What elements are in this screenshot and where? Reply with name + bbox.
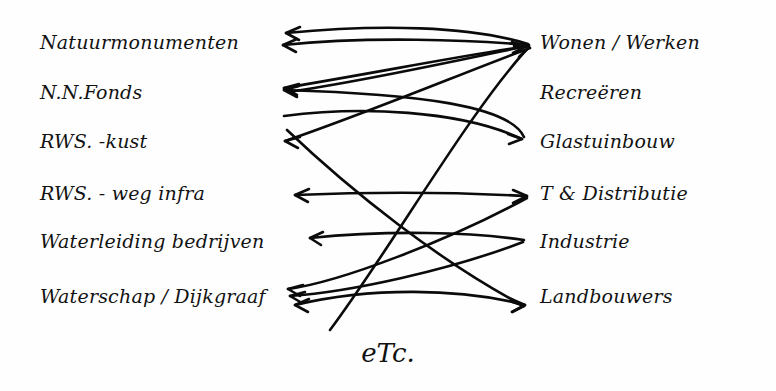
right-label-landbouwers: Landbouwers	[539, 285, 673, 307]
connector-c12	[288, 198, 527, 296]
left-label-waterschap-dijkgraaf: Waterschap / Dijkgraaf	[40, 285, 269, 307]
connector-c2	[283, 39, 529, 52]
left-label-waterleiding-bedrijven: Waterleiding bedrijven	[40, 230, 264, 252]
right-label-t-distributie: T & Distributie	[540, 182, 688, 204]
left-column: Natuurmonumenten N.N.Fonds RWS. -kust RW…	[39, 31, 269, 307]
connector-group	[283, 27, 530, 330]
left-label-rws-weg-infra: RWS. - weg infra	[39, 182, 205, 204]
footer-note: eTc.	[361, 338, 415, 368]
left-label-rws-kust: RWS. -kust	[39, 130, 148, 152]
diagram-canvas: Natuurmonumenten N.N.Fonds RWS. -kust RW…	[0, 0, 776, 391]
left-label-natuurmonumenten: Natuurmonumenten	[39, 31, 239, 53]
left-label-nn-fonds: N.N.Fonds	[39, 81, 142, 103]
connector-c9	[295, 189, 527, 203]
connector-c13	[290, 242, 523, 303]
connector-c11	[295, 292, 525, 312]
right-label-glastuinbouw: Glastuinbouw	[540, 130, 675, 152]
right-label-wonen-werken: Wonen / Werken	[540, 31, 700, 53]
right-label-recreeren: Recreëren	[539, 81, 642, 103]
right-column: Wonen / Werken Recreëren Glastuinbouw T …	[539, 31, 700, 307]
right-label-industrie: Industrie	[539, 230, 630, 252]
handwritten-diagram: Natuurmonumenten N.N.Fonds RWS. -kust RW…	[0, 0, 776, 391]
